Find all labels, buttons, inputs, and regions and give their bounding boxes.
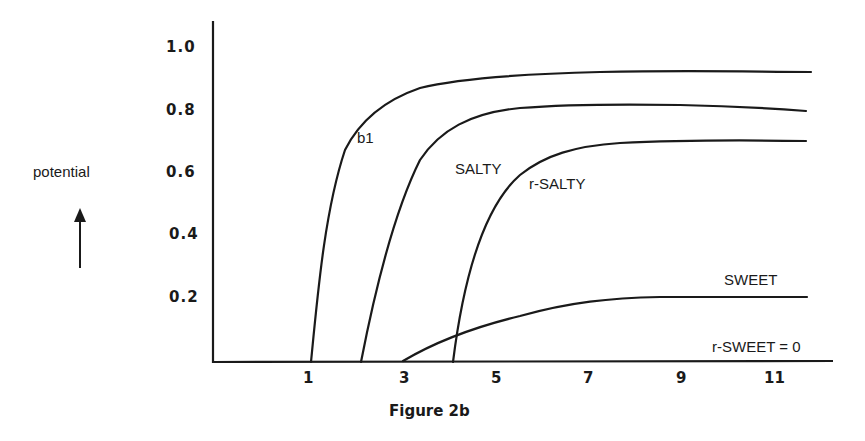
x-tick-label: 3 (399, 369, 409, 387)
y-tick-label: 0.2 (169, 288, 199, 306)
curve-b1 (311, 71, 811, 362)
y-tick-label: 0.6 (166, 163, 196, 181)
up-arrow-icon (74, 208, 86, 268)
chart: potential 1.0 0.8 0.6 0.4 0.2 1 3 5 7 9 … (0, 0, 865, 441)
label-salty: SALTY (455, 160, 501, 177)
x-tick-label: 1 (303, 369, 313, 387)
x-axis-ticks: 1 3 5 7 9 11 (303, 369, 785, 387)
y-axis-label: potential (33, 163, 90, 180)
y-tick-label: 0.4 (169, 225, 199, 243)
y-tick-label: 1.0 (166, 38, 196, 56)
label-r-sweet: r-SWEET = 0 (712, 338, 801, 355)
figure-caption: Figure 2b (389, 402, 470, 420)
label-b1: b1 (357, 129, 374, 146)
x-tick-label: 5 (491, 369, 501, 387)
x-tick-label: 11 (764, 369, 785, 387)
curve-r-salty (453, 140, 806, 362)
x-tick-label: 7 (583, 369, 593, 387)
x-tick-label: 9 (676, 369, 686, 387)
y-axis-ticks: 1.0 0.8 0.6 0.4 0.2 (166, 38, 199, 306)
curve-salty (361, 104, 806, 362)
label-r-salty: r-SALTY (529, 175, 585, 192)
y-tick-label: 0.8 (166, 101, 196, 119)
label-sweet: SWEET (724, 271, 777, 288)
